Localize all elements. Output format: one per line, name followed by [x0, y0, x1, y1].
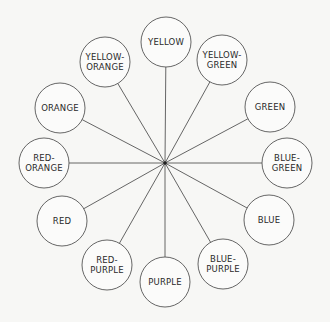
node-label: YELLOW [147, 37, 184, 47]
spoke-yellow [165, 67, 166, 163]
node-label: RED- [33, 153, 55, 163]
node-yellow: YELLOW [141, 17, 191, 67]
spoke-blue-purple [165, 163, 211, 242]
node-label: PURPLE [148, 277, 182, 287]
node-red-orange: RED-ORANGE [19, 138, 69, 188]
node-blue-green: BLUE-GREEN [262, 138, 312, 188]
node-label: RED- [96, 255, 118, 265]
node-label: ORANGE [86, 62, 124, 72]
node-label: ORANGE [25, 163, 63, 173]
node-label: BLUE- [274, 153, 300, 163]
node-red: RED [37, 196, 87, 246]
node-red-purple: RED-PURPLE [82, 240, 132, 290]
node-blue-purple: BLUE-PURPLE [198, 239, 248, 289]
node-label: RED [53, 216, 72, 226]
node-label: GREEN [207, 60, 238, 70]
spoke-red [84, 163, 165, 209]
node-purple: PURPLE [140, 257, 190, 307]
node-label: BLUE [258, 215, 281, 225]
node-yellow-green: YELLOW-GREEN [197, 35, 247, 85]
hub-point [163, 161, 167, 165]
node-label: GREEN [272, 163, 303, 173]
color-wheel-diagram: YELLOWYELLOW-GREENGREENBLUE-GREENBLUEBLU… [0, 0, 330, 322]
node-label: BLUE- [210, 254, 236, 264]
node-blue: BLUE [244, 195, 294, 245]
node-orange: ORANGE [35, 83, 85, 133]
node-label: PURPLE [90, 265, 124, 275]
node-label: ORANGE [41, 103, 79, 113]
node-yellow-orange: YELLOW-ORANGE [80, 37, 130, 87]
node-label: YELLOW- [202, 50, 242, 60]
node-green: GREEN [245, 82, 295, 132]
spoke-blue [165, 163, 247, 208]
node-label: YELLOW- [85, 52, 125, 62]
spoke-red-purple [119, 163, 165, 243]
node-label: PURPLE [206, 264, 240, 274]
node-label: GREEN [255, 102, 286, 112]
